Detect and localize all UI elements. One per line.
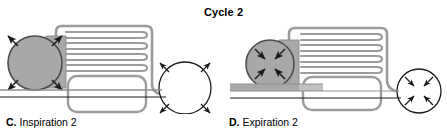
panel-d-letter: D.	[229, 116, 240, 128]
air-sac	[68, 76, 146, 112]
respiration-cycle-figure: Cycle 2	[0, 0, 447, 136]
airway-tubes	[301, 34, 382, 73]
panel-c-diagram	[0, 18, 223, 114]
abdomen-sphere	[397, 69, 441, 113]
panel-d-diagram	[223, 18, 447, 114]
air-sac	[303, 77, 381, 110]
panel-c-letter: C.	[6, 116, 17, 128]
chest-wall-sphere	[246, 40, 294, 88]
panel-d-caption-text: Expiration 2	[243, 116, 298, 128]
panel-d-caption: D.Expiration 2	[229, 116, 298, 128]
panel-c-caption: C.Inspiration 2	[6, 116, 77, 128]
airway-tubes	[66, 32, 147, 71]
panel-c-caption-text: Inspiration 2	[20, 116, 77, 128]
figure-title: Cycle 2	[0, 6, 447, 18]
